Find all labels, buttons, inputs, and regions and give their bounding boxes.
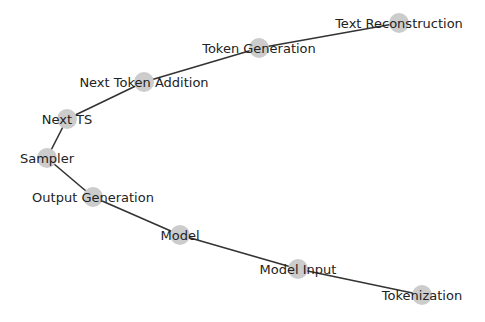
node-label-token_generation: Token Generation — [201, 41, 316, 56]
node-label-sampler: Sampler — [20, 151, 75, 166]
node-label-next_token_addition: Next Token Addition — [79, 75, 208, 90]
node-label-output_generation: Output Generation — [32, 190, 154, 205]
labels-layer: Text ReconstructionToken GenerationNext … — [20, 16, 463, 303]
node-label-model: Model — [160, 228, 199, 243]
node-label-next_ts: Next TS — [42, 112, 93, 127]
graph-diagram: Text ReconstructionToken GenerationNext … — [0, 0, 485, 322]
nodes-layer — [37, 13, 432, 305]
node-label-tokenization: Tokenization — [381, 288, 462, 303]
node-label-model_input: Model Input — [260, 262, 337, 277]
graph-svg: Text ReconstructionToken GenerationNext … — [0, 0, 485, 322]
edges-layer — [47, 23, 422, 295]
node-label-text_reconstruction: Text Reconstruction — [334, 16, 463, 31]
